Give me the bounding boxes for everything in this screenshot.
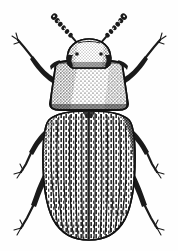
elytra bbox=[38, 108, 141, 250]
beetle-drawing bbox=[0, 0, 178, 251]
left-fore-leg bbox=[12, 33, 55, 84]
head bbox=[64, 36, 116, 72]
beetle-illustration-figure: Line drawing of a small elongate beetle … bbox=[0, 0, 178, 251]
right-fore-leg bbox=[123, 33, 166, 84]
